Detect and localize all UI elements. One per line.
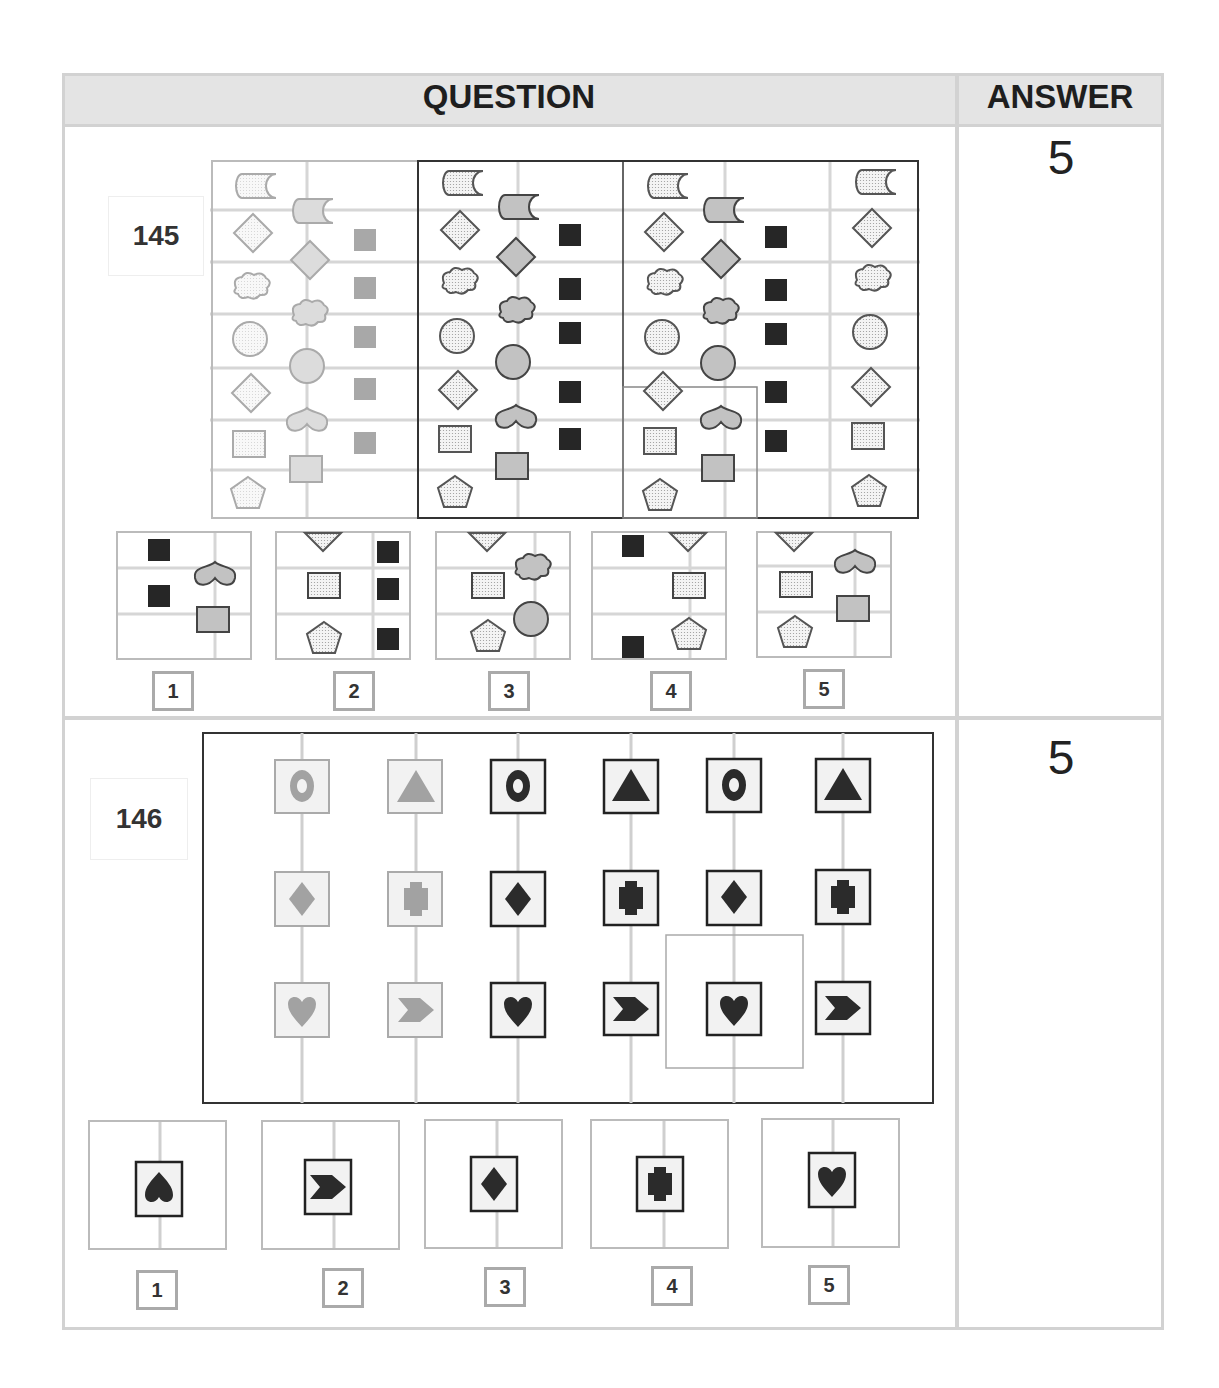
option-145-5 (757, 532, 891, 657)
question-number-146: 146 (90, 778, 188, 860)
answer-145: 5 (958, 130, 1164, 185)
option-145-4 (592, 532, 726, 659)
question-number-145: 145 (108, 196, 204, 276)
option-146-5-button[interactable]: 5 (808, 1265, 850, 1305)
option-145-1-button[interactable]: 1 (152, 671, 194, 711)
option-146-3-button[interactable]: 3 (484, 1267, 526, 1307)
column-divider (955, 73, 959, 1330)
option-145-2-button[interactable]: 2 (333, 671, 375, 711)
option-145-2 (276, 532, 410, 659)
row-divider (62, 716, 1164, 720)
puzzle-145-options (115, 530, 895, 665)
answer-header: ANSWER (956, 78, 1164, 116)
option-146-2-button[interactable]: 2 (322, 1268, 364, 1308)
puzzle-146-grid (200, 730, 940, 1108)
option-145-3 (436, 532, 570, 659)
puzzle-146-options (86, 1118, 906, 1253)
answer-146: 5 (958, 730, 1164, 785)
option-145-1 (117, 532, 251, 659)
option-145-5-button[interactable]: 5 (803, 669, 845, 709)
puzzle-145-grid (205, 150, 925, 530)
question-header: QUESTION (62, 78, 956, 116)
option-145-4-button[interactable]: 4 (650, 671, 692, 711)
option-146-1-button[interactable]: 1 (136, 1270, 178, 1310)
option-146-4-button[interactable]: 4 (651, 1266, 693, 1306)
option-145-3-button[interactable]: 3 (488, 671, 530, 711)
